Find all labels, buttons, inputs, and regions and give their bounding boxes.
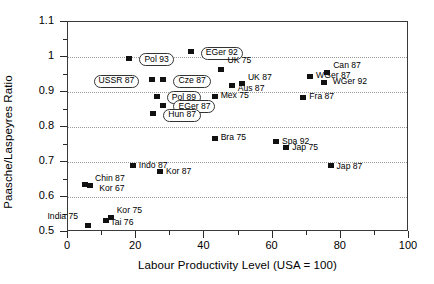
data-point-marker[interactable] xyxy=(212,94,218,99)
data-point-marker[interactable] xyxy=(149,77,155,82)
y-axis-title: Paasche/Laspeyres Ratio xyxy=(0,0,16,284)
data-point-marker[interactable] xyxy=(212,136,218,141)
data-point-marker[interactable] xyxy=(300,95,306,100)
y-axis-tick-label: 1.1 xyxy=(0,15,54,26)
data-point-marker[interactable] xyxy=(328,163,334,168)
data-point-marker[interactable] xyxy=(324,70,330,75)
data-point-label: Chin 87 xyxy=(95,174,125,183)
data-point-marker[interactable] xyxy=(321,80,327,85)
data-point-marker[interactable] xyxy=(188,49,194,54)
x-axis-tick-label: 20 xyxy=(115,240,155,251)
y-axis-tick xyxy=(60,196,67,197)
data-point-label: Jap 75 xyxy=(292,143,318,152)
data-point-label: Tai 76 xyxy=(111,218,134,227)
data-point-marker[interactable] xyxy=(218,67,224,72)
data-point-label: Cze 87 xyxy=(173,75,210,88)
data-point-label: Pol 93 xyxy=(139,53,173,66)
data-point-marker[interactable] xyxy=(126,56,132,61)
y-axis-tick-label: 0.7 xyxy=(0,155,54,166)
y-axis-tick-label: 0.6 xyxy=(0,190,54,201)
plot-area: EGer 92Pol 93USSR 87Cze 87Pol 89EGer 87H… xyxy=(67,21,408,231)
data-point-label: Hun 87 xyxy=(163,109,201,122)
data-point-marker[interactable] xyxy=(239,81,245,86)
data-point-marker[interactable] xyxy=(160,103,166,108)
x-axis-tick-label: 40 xyxy=(183,240,223,251)
data-point-marker[interactable] xyxy=(160,77,166,82)
y-axis-tick-label: 1 xyxy=(0,50,54,61)
data-point-label: Kor 87 xyxy=(166,167,191,176)
y-axis-tick xyxy=(60,126,67,127)
data-point-marker[interactable] xyxy=(283,145,289,150)
y-axis-tick-label: 0.8 xyxy=(0,120,54,131)
data-point-label: Indo 87 xyxy=(139,161,168,170)
data-point-marker[interactable] xyxy=(157,169,163,174)
data-point-label: Bra 75 xyxy=(221,133,246,142)
y-axis-tick-label: 0.9 xyxy=(0,85,54,96)
x-axis-minor-tick xyxy=(374,231,375,235)
data-point-marker[interactable] xyxy=(130,163,136,168)
data-point-label: UK 87 xyxy=(248,73,272,82)
y-axis-tick xyxy=(60,21,67,22)
y-axis-tick-label: 0.5 xyxy=(0,225,54,236)
x-axis-tick xyxy=(203,231,204,238)
x-axis-minor-tick xyxy=(169,231,170,235)
x-axis-minor-tick xyxy=(101,231,102,235)
x-axis-minor-tick xyxy=(238,231,239,235)
data-point-label: Can 87 xyxy=(333,61,361,70)
data-point-marker[interactable] xyxy=(150,111,156,116)
x-axis-tick xyxy=(135,231,136,238)
data-point-label: Kor 67 xyxy=(99,184,124,193)
y-axis-tick xyxy=(60,231,67,232)
data-point-marker[interactable] xyxy=(108,215,114,220)
data-point-label: Fra 87 xyxy=(309,92,334,101)
y-axis-tick xyxy=(60,161,67,162)
gridline-horizontal xyxy=(68,127,407,128)
data-point-marker[interactable] xyxy=(307,74,313,79)
x-axis-tick xyxy=(340,231,341,238)
x-axis-tick xyxy=(67,231,68,238)
data-point-marker[interactable] xyxy=(229,83,235,88)
x-axis-title: Labour Productivity Level (USA = 100) xyxy=(67,258,408,272)
x-axis-tick xyxy=(272,231,273,238)
x-axis-tick xyxy=(408,231,409,238)
gridline-horizontal xyxy=(68,197,407,198)
data-point-label: Kor 75 xyxy=(117,206,142,215)
x-axis-tick-label: 0 xyxy=(47,240,87,251)
data-point-marker[interactable] xyxy=(87,183,93,188)
y-axis-tick xyxy=(60,91,67,92)
y-axis-tick xyxy=(60,56,67,57)
data-point-label: Jap 87 xyxy=(337,162,363,171)
data-point-label: WGer 92 xyxy=(333,77,367,86)
data-point-marker[interactable] xyxy=(154,94,160,99)
data-point-label: India 75 xyxy=(47,212,78,221)
x-axis-tick-label: 100 xyxy=(388,240,428,251)
data-point-label: USSR 87 xyxy=(94,75,140,88)
x-axis-tick-label: 80 xyxy=(320,240,360,251)
x-axis-minor-tick xyxy=(306,231,307,235)
data-point-marker[interactable] xyxy=(85,223,91,228)
x-axis-tick-label: 60 xyxy=(252,240,292,251)
scatter-chart-figure: Paasche/Laspeyres Ratio Labour Productiv… xyxy=(0,0,434,284)
data-point-marker[interactable] xyxy=(273,139,279,144)
data-point-label: UK 75 xyxy=(227,56,251,65)
